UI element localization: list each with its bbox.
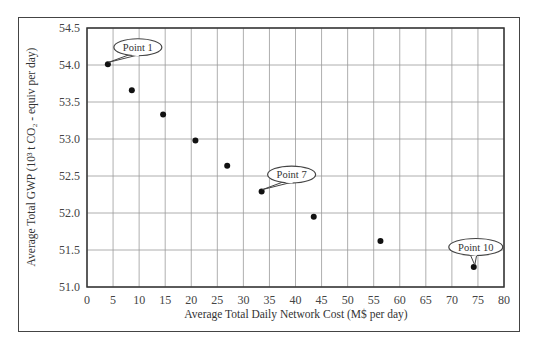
- callout-point-1: Point 1: [109, 39, 162, 63]
- y-tick-label: 51.0: [59, 280, 80, 294]
- y-tick-label: 51.5: [59, 243, 80, 257]
- callout-label: Point 7: [277, 169, 307, 180]
- x-tick-label: 0: [84, 293, 90, 307]
- x-tick-label: 55: [368, 293, 380, 307]
- x-tick-label: 35: [263, 293, 275, 307]
- x-axis-ticks: 05101520253035404550556065707580: [84, 293, 510, 307]
- x-tick-label: 15: [159, 293, 171, 307]
- x-tick-label: 60: [394, 293, 406, 307]
- x-tick-label: 45: [316, 293, 328, 307]
- data-point: [129, 87, 135, 93]
- x-tick-label: 10: [133, 293, 145, 307]
- x-tick-label: 30: [237, 293, 249, 307]
- gridlines: [87, 28, 504, 287]
- x-tick-label: 25: [211, 293, 223, 307]
- data-point: [160, 112, 166, 118]
- callout-label: Point 10: [458, 242, 493, 253]
- y-tick-label: 54.5: [59, 21, 80, 35]
- data-point: [311, 214, 317, 220]
- x-tick-label: 20: [185, 293, 197, 307]
- data-point: [224, 163, 230, 169]
- y-axis-ticks: 51.051.552.052.553.053.554.054.5: [59, 21, 80, 294]
- x-tick-label: 40: [290, 293, 302, 307]
- x-tick-label: 50: [342, 293, 354, 307]
- data-point: [377, 238, 383, 244]
- data-point: [192, 137, 198, 143]
- x-tick-label: 70: [446, 293, 458, 307]
- y-axis-label: Average Total GWP (10³ t CO₂ - equiv per…: [25, 47, 38, 266]
- x-tick-label: 80: [498, 293, 510, 307]
- y-tick-label: 52.0: [59, 206, 80, 220]
- x-tick-label: 65: [420, 293, 432, 307]
- callout-point-6: Point 7: [263, 166, 316, 190]
- y-tick-label: 54.0: [59, 58, 80, 72]
- y-tick-label: 53.0: [59, 132, 80, 146]
- x-axis-label: Average Total Daily Network Cost (M$ per…: [184, 308, 407, 321]
- data-point: [471, 264, 477, 270]
- callouts: Point 1Point 7Point 10: [109, 39, 503, 265]
- y-tick-label: 52.5: [59, 169, 80, 183]
- x-tick-label: 5: [110, 293, 116, 307]
- scatter-chart: 05101520253035404550556065707580 51.051.…: [0, 0, 538, 353]
- callout-point-9: Point 10: [449, 239, 503, 265]
- y-tick-label: 53.5: [59, 95, 80, 109]
- x-tick-label: 75: [472, 293, 484, 307]
- callout-label: Point 1: [123, 42, 153, 53]
